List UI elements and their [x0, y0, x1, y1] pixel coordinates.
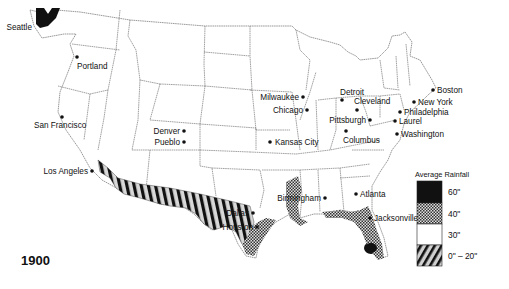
city-philadelphia: Philadelphia [398, 108, 449, 117]
legend-label-40: 40" [448, 209, 460, 219]
city-label: Denver [154, 127, 181, 136]
city-dot-icon [182, 140, 186, 144]
city-label: Detroit [340, 88, 365, 97]
city-label: Seattle [7, 23, 33, 32]
legend-label-60: 60" [448, 187, 460, 197]
legend-swatch-30 [417, 224, 442, 245]
city-seattle: Seattle [7, 23, 33, 32]
city-label: Laurel [399, 117, 422, 126]
city-dot-icon [75, 55, 79, 59]
legend-swatch-40 [417, 203, 442, 224]
city-dot-icon [340, 98, 344, 102]
legend-label-30: 30" [448, 230, 460, 240]
city-dot-icon [412, 100, 416, 104]
city-label: Houston [223, 223, 254, 232]
legend-swatch-0-20 [417, 245, 442, 266]
city-label: Los Angeles [43, 167, 88, 176]
city-label: Jacksonville [374, 214, 419, 223]
city-dot-icon [305, 108, 309, 112]
rainfall-map: SeattlePortlandSan FranciscoLos AngelesD… [0, 0, 509, 289]
legend-label-0-20: 0" – 20" [448, 251, 477, 261]
city-milwaukee: Milwaukee [260, 93, 304, 102]
region-60-florida-overlay [365, 243, 377, 253]
city-label: Kansas City [275, 138, 320, 147]
legend-swatch-60 [417, 181, 442, 203]
city-dot-icon [251, 211, 255, 215]
city-label: Boston [437, 86, 463, 95]
city-dot-icon [395, 132, 399, 136]
city-label: Philadelphia [404, 108, 449, 117]
city-label: Pueblo [155, 138, 181, 147]
city-dot-icon [355, 108, 359, 112]
city-label: Pittsburgh [329, 116, 366, 125]
city-label: Chicago [273, 106, 303, 115]
legend: Average Rainfall 60" 40" 30" 0" – 20" [415, 170, 477, 266]
city-label: Milwaukee [260, 93, 299, 102]
map-year: 1900 [21, 253, 50, 268]
city-label: Dallas [226, 209, 249, 218]
city-label: Portland [77, 62, 108, 71]
city-jacksonville: Jacksonville [368, 214, 418, 223]
city-washington: Washington [395, 130, 444, 139]
city-kansas-city: Kansas City [268, 138, 319, 147]
city-birmingham: Birmingham [277, 194, 326, 203]
city-label: San Francisco [34, 121, 87, 130]
city-dot-icon [344, 129, 348, 133]
city-label: Atlanta [360, 190, 386, 199]
city-label: New York [418, 98, 453, 107]
city-label: Columbus [343, 136, 380, 145]
city-dot-icon [368, 216, 372, 220]
city-dot-icon [182, 129, 186, 133]
city-dot-icon [398, 110, 402, 114]
city-label: Birmingham [277, 194, 321, 203]
city-dot-icon [323, 196, 327, 200]
city-label: Cleveland [354, 97, 391, 106]
city-dot-icon [60, 115, 64, 119]
legend-title: Average Rainfall [415, 170, 469, 179]
city-los-angeles: Los Angeles [43, 167, 93, 176]
city-pittsburgh: Pittsburgh [329, 116, 372, 125]
city-dot-icon [354, 192, 358, 196]
city-dot-icon [268, 140, 272, 144]
city-dot-icon [431, 88, 435, 92]
city-label: Washington [401, 130, 444, 139]
city-dot-icon [90, 169, 94, 173]
city-dot-icon [393, 119, 397, 123]
city-dot-icon [368, 118, 372, 122]
city-dot-icon [255, 225, 259, 229]
city-new-york: New York [412, 98, 453, 107]
city-dot-icon [301, 95, 305, 99]
